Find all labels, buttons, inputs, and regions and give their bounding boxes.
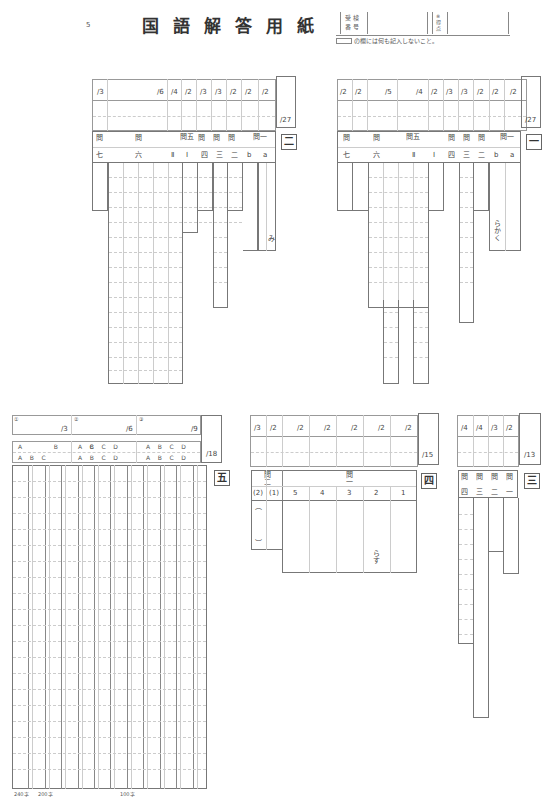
- score-cell: /2: [324, 425, 331, 432]
- score-cell: /2: [510, 89, 517, 96]
- check-label: B: [90, 443, 94, 450]
- check-row-a2: A B C: [18, 455, 46, 461]
- score-cell: /2: [245, 89, 252, 96]
- answer-q4[interactable]: [213, 163, 228, 308]
- check-label: A: [146, 443, 150, 450]
- score-label-bottom: 点: [436, 26, 441, 31]
- score-cell: /2: [270, 425, 277, 432]
- answer-q1-a-text: らかく: [492, 220, 502, 250]
- score-cell: /3: [200, 89, 207, 96]
- answer-q6-grid[interactable]: [108, 163, 183, 384]
- sub-label: 一: [506, 489, 513, 496]
- score-cell: /2: [405, 425, 412, 432]
- score-cell: /3: [446, 89, 453, 96]
- q-label: 問: [373, 135, 380, 142]
- note-box-sample: [336, 38, 352, 44]
- q-label: 問: [135, 135, 142, 142]
- score-marker: ①: [14, 417, 18, 422]
- divider: [336, 35, 510, 36]
- score-cell: /2: [297, 425, 304, 432]
- char-mark-240: 240字: [14, 792, 29, 797]
- sub-label: 三: [216, 152, 223, 159]
- sub-label: b: [247, 152, 251, 159]
- section-go-total-box: /18: [201, 415, 222, 463]
- char-mark-200: 200字: [38, 792, 53, 797]
- q-label: 問五: [406, 133, 420, 141]
- score-box: ※ 得 点: [432, 12, 509, 34]
- answer-q6[interactable]: [353, 163, 369, 211]
- section-ichi-total-box: /27: [521, 76, 541, 128]
- divider: [447, 12, 448, 34]
- check-label: D: [181, 443, 186, 450]
- sub-label: Ⅰ: [186, 152, 188, 159]
- sub-label: 二: [491, 489, 498, 496]
- q-label: 問: [96, 135, 103, 142]
- section-san-total-box: /13: [519, 413, 541, 465]
- score-cell: /3: [61, 426, 68, 433]
- section-ni-total: /27: [280, 117, 291, 124]
- sub-label: 三: [463, 152, 470, 159]
- q-label: 問: [478, 135, 485, 142]
- check-label: D: [113, 454, 118, 461]
- check-label: B: [30, 454, 34, 461]
- q-label: 問: [198, 135, 205, 142]
- check-label: A: [78, 443, 82, 450]
- score-cell: /5: [385, 89, 392, 96]
- score-marker: ③: [139, 417, 143, 422]
- answer-q5-1[interactable]: [198, 163, 213, 211]
- q-label: 問: [461, 474, 468, 481]
- answer-q3[interactable]: [459, 163, 474, 323]
- score-cell: /3: [254, 425, 261, 432]
- section-label-yon: 四: [421, 473, 437, 489]
- check-label: C: [102, 443, 106, 450]
- score-cell: /6: [157, 89, 164, 96]
- sub-label: a: [263, 152, 267, 159]
- check-label: C: [170, 443, 174, 450]
- score-cell: /3: [461, 89, 468, 96]
- sub-label: 七: [96, 152, 103, 159]
- check-label: D: [113, 443, 118, 450]
- check-label: A: [78, 454, 82, 461]
- sub-label: Ⅱ: [171, 152, 174, 159]
- check-label: A: [146, 454, 150, 461]
- score-cell: /4: [476, 425, 483, 432]
- answer-q1[interactable]: [282, 500, 417, 573]
- paren-open: ︵: [255, 504, 262, 511]
- score-cell: /2: [262, 89, 269, 96]
- answer-q3[interactable]: [228, 163, 243, 211]
- answer-q1[interactable]: [503, 498, 519, 574]
- sub-label: 二: [231, 152, 238, 159]
- answer-q4[interactable]: [428, 163, 444, 211]
- section-ichi-total: /27: [525, 117, 536, 124]
- q-label: 問: [506, 474, 513, 481]
- answer-q2[interactable]: [474, 163, 489, 211]
- score-cell: /4: [461, 425, 468, 432]
- sub-label: a: [510, 152, 514, 159]
- answer-q7[interactable]: [92, 163, 108, 211]
- check-label: A: [18, 454, 22, 461]
- sub-label: 1: [401, 490, 405, 497]
- score-cell: /2: [431, 89, 438, 96]
- check-row-b2: A B C D: [78, 455, 118, 461]
- paren-close: ︶: [255, 540, 262, 547]
- q-label: 問: [228, 135, 235, 142]
- answer-q2[interactable]: [488, 498, 504, 552]
- answer-q2[interactable]: [243, 163, 258, 251]
- answer-q1-2-text: らす: [371, 550, 381, 568]
- sub-label: Ⅰ: [433, 152, 435, 159]
- score-cell: /6: [126, 426, 133, 433]
- score-marker: ②: [74, 417, 78, 422]
- answer-q3[interactable]: [473, 498, 489, 718]
- section-label-go: 五: [214, 470, 230, 486]
- sub-label: 四: [461, 489, 468, 496]
- section-ni-total-box: /27: [276, 76, 296, 128]
- score-cell: /2: [378, 425, 385, 432]
- exam-number-box[interactable]: 受 検 番 号: [340, 12, 428, 34]
- sub-label: 六: [373, 152, 380, 159]
- check-label: C: [42, 454, 46, 461]
- q-label-2: 問二: [263, 472, 271, 486]
- score-cell: /2: [185, 89, 192, 96]
- exam-number-label-bottom: 番 号: [345, 24, 359, 30]
- answer-q7[interactable]: [337, 163, 353, 211]
- answer-q4[interactable]: [458, 498, 474, 644]
